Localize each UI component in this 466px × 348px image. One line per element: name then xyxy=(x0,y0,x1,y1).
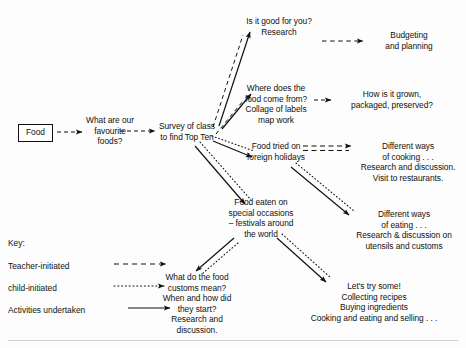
node-budgeting-and-planning: Budgeting and planning xyxy=(368,30,450,51)
node-food: Food xyxy=(18,124,53,142)
node-how-is-it-grown: How is it grown, packaged, preserved? xyxy=(333,89,451,110)
node-food-tried-foreign-holidays: Food tried on foreign holidays xyxy=(241,141,311,162)
legend-label-activities-undertaken: Activities undertaken xyxy=(8,305,85,315)
node-where-does-food-come-from: Where does the food come from? Collage o… xyxy=(237,83,315,125)
node-different-ways-of-cooking: Different ways of cooking . . . Research… xyxy=(352,141,464,183)
edge-holidays-to-eating-dotted xyxy=(296,163,354,211)
node-food-eaten-special-occasions: Food eaten on special occasions – festiv… xyxy=(219,197,303,239)
edge-occasions-to-trysome-dotted xyxy=(282,234,331,278)
legend-key: Key: Teacher-initiated child-initiated xyxy=(8,238,183,327)
node-is-it-good-for-you: Is it good for you? Research xyxy=(234,16,324,37)
diagram-canvas: Food What are our favourite foods? Surve… xyxy=(0,0,466,348)
node-different-ways-of-eating: Different ways of eating . . . Research … xyxy=(345,209,463,251)
edge-occasions-to-customs-solid xyxy=(196,238,234,271)
legend-title: Key: xyxy=(8,238,183,248)
bottom-rule xyxy=(8,340,458,341)
edge-occasions-to-customs-dotted xyxy=(202,243,238,274)
edge-survey-to-occasions-solid xyxy=(195,146,245,204)
legend-item-activities-undertaken: Activities undertaken xyxy=(8,305,183,327)
edge-occasions-to-trysome-solid xyxy=(277,238,326,282)
node-lets-try-some: Let's try some! Collecting recipes Buyin… xyxy=(284,281,464,323)
node-survey: Survey of class to find Top Ten xyxy=(152,121,222,142)
legend-label-child-initiated: child-initiated xyxy=(8,283,57,293)
legend-swatch-dotted-arrow xyxy=(112,279,178,293)
node-favourite-foods-question: What are our favourite foods? xyxy=(78,115,142,147)
legend-label-teacher-initiated: Teacher-initiated xyxy=(8,261,69,271)
legend-swatch-solid-arrow xyxy=(126,301,192,315)
legend-swatch-dashed-arrow xyxy=(112,257,178,271)
